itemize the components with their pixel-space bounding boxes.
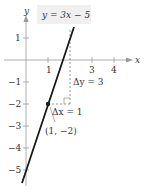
y-tick-label-neg1: −1	[8, 77, 21, 87]
right-angle-marker-icon	[64, 98, 70, 104]
y-tick-label-1: 1	[15, 33, 21, 43]
delta-x-label: Δx = 1	[52, 107, 83, 117]
equation-label: y = 3x − 5	[41, 10, 90, 20]
x-axis-arrow-icon	[126, 58, 133, 63]
x-tick-label-1: 1	[46, 65, 52, 75]
y-tick-label-neg4: −4	[8, 143, 22, 153]
point-1-neg2	[46, 102, 50, 106]
y-tick-label-neg2: −2	[8, 99, 21, 109]
y-axis-arrow-icon	[24, 15, 29, 22]
y-axis-label: y	[23, 6, 30, 16]
point-label: (1, −2)	[45, 126, 77, 136]
x-tick-label-4: 4	[111, 65, 117, 75]
x-axis-label: x	[135, 55, 140, 65]
line-graph: y = 3x − 5 x y 1 3 4 1 −1 −2 −3 −4 −5 Δy…	[0, 0, 147, 192]
y-tick-label-neg5: −5	[8, 165, 22, 175]
x-tick-label-3: 3	[89, 65, 95, 75]
y-tick-label-neg3: −3	[8, 121, 22, 131]
delta-y-label: Δy = 3	[73, 77, 104, 87]
